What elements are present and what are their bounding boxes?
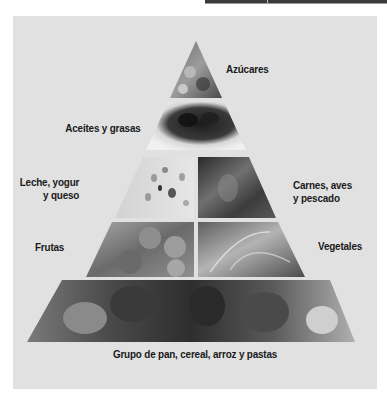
tier-protein — [198, 157, 276, 218]
tier-sweets — [170, 41, 222, 98]
label-fruits: Frutas — [35, 241, 64, 254]
label-oils: Aceites y grasas — [66, 122, 141, 135]
label-sugars: Azúcares — [226, 63, 269, 76]
label-dairy-line1: Leche, yogur — [20, 176, 79, 189]
label-protein-line1: Carnes, aves — [293, 179, 352, 192]
label-dairy-line2: y queso — [20, 189, 79, 202]
label-vegetables: Vegetales — [318, 240, 362, 253]
tier-fruits — [86, 222, 194, 277]
label-dairy: Leche, yogur y queso — [20, 176, 79, 202]
label-protein-line2: y pescado — [293, 192, 352, 205]
label-protein: Carnes, aves y pescado — [293, 179, 352, 205]
tier-dairy — [115, 157, 194, 218]
label-grains: Grupo de pan, cereal, arroz y pastas — [38, 348, 351, 361]
tier-grains — [27, 280, 355, 342]
tier-vegetables — [198, 222, 305, 277]
tier-oils — [146, 102, 246, 150]
